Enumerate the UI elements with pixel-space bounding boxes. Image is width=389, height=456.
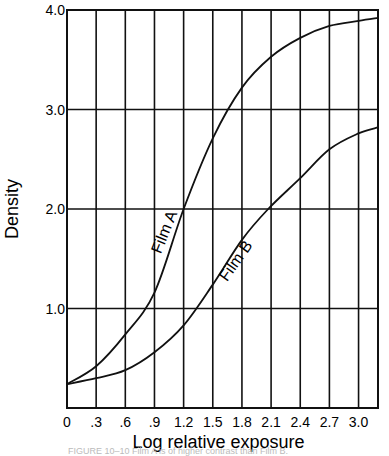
x-tick-label: 1.8 — [232, 414, 252, 430]
curve-film-a — [67, 18, 378, 384]
curve-label-film-b: Film B — [216, 237, 256, 284]
x-tick-label: 2.1 — [261, 414, 281, 430]
plot-labels: 0.3.6.91.21.51.82.12.42.73.01.02.03.04.0… — [2, 2, 369, 452]
x-tick-label: .3 — [90, 414, 102, 430]
y-tick-label: 2.0 — [46, 201, 66, 217]
x-tick-label: .6 — [119, 414, 131, 430]
y-tick-label: 1.0 — [46, 301, 66, 317]
x-tick-label: 0 — [63, 414, 71, 430]
curve-film-b — [67, 127, 378, 384]
x-tick-label: 1.5 — [203, 414, 223, 430]
x-tick-label: 1.2 — [174, 414, 194, 430]
x-tick-label: 2.4 — [291, 414, 311, 430]
x-tick-label: 3.0 — [349, 414, 369, 430]
y-tick-label: 3.0 — [46, 102, 66, 118]
figure-caption: FIGURE 10–10 Film A is of higher contras… — [68, 446, 368, 456]
x-tick-label: 2.7 — [320, 414, 340, 430]
y-tick-label: 4.0 — [46, 2, 66, 18]
plot-curves — [67, 18, 378, 384]
y-axis-title: Density — [2, 179, 22, 239]
x-tick-label: .9 — [149, 414, 161, 430]
